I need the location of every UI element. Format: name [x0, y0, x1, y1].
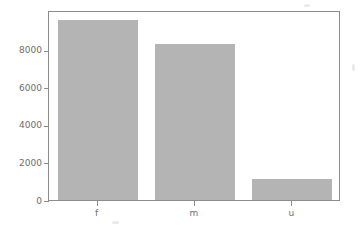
y-tick-mark — [44, 88, 49, 89]
x-tick-mark — [291, 201, 292, 206]
bar-f — [58, 20, 138, 200]
y-tick-label: 4000 — [0, 121, 42, 130]
bar-m — [155, 44, 235, 200]
y-tick-label: 0 — [0, 197, 42, 206]
y-tick-mark — [44, 201, 49, 202]
scan-speck — [112, 221, 119, 224]
x-tick-label-m: m — [174, 209, 214, 218]
x-tick-label-f: f — [77, 209, 117, 218]
y-tick-label: 2000 — [0, 159, 42, 168]
plot-area — [48, 11, 340, 201]
x-tick-mark — [194, 201, 195, 206]
scan-speck — [352, 64, 355, 71]
y-tick-label: 6000 — [0, 84, 42, 93]
y-tick-mark — [44, 163, 49, 164]
bar-chart-figure: 02000400060008000 fmu — [0, 0, 363, 229]
x-tick-label-u: u — [271, 209, 311, 218]
x-tick-mark — [97, 201, 98, 206]
bars-layer — [49, 12, 339, 200]
bar-u — [252, 179, 332, 200]
y-tick-label: 8000 — [0, 46, 42, 55]
y-tick-mark — [44, 126, 49, 127]
scan-speck — [304, 4, 310, 7]
y-tick-mark — [44, 51, 49, 52]
